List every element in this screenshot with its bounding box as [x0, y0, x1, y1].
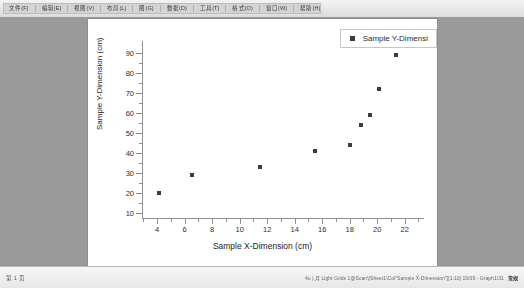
- menu-item-6[interactable]: 工具(T): [200, 3, 220, 14]
- data-point[interactable]: [359, 123, 363, 127]
- x-tick-minor: [281, 219, 282, 222]
- y-tick-label: 80: [126, 69, 134, 78]
- y-tick: [136, 113, 142, 114]
- menu-separator: [132, 5, 133, 12]
- data-point[interactable]: [157, 191, 161, 195]
- menu-item-0[interactable]: 文件(F): [9, 3, 29, 14]
- y-axis-line: [142, 41, 143, 219]
- menu-item-5[interactable]: 数据(D): [167, 3, 187, 14]
- y-tick-label: 10: [126, 209, 134, 218]
- x-tick-label: 20: [373, 225, 381, 234]
- x-tick-minor: [226, 219, 227, 222]
- x-tick: [240, 219, 241, 224]
- y-tick-minor: [139, 143, 142, 144]
- x-tick-minor: [308, 219, 309, 222]
- data-point[interactable]: [313, 149, 317, 153]
- y-tick-minor: [139, 103, 142, 104]
- menu-item-3[interactable]: 布局(L): [107, 3, 126, 14]
- menu-separator: [160, 5, 161, 12]
- x-tick-label: 6: [183, 225, 187, 234]
- y-tick: [136, 193, 142, 194]
- x-tick: [157, 219, 158, 224]
- menu-item-7[interactable]: 格式(O): [232, 3, 252, 14]
- menu-item-2[interactable]: 视图(V): [74, 3, 94, 14]
- scatter-chart[interactable]: Sample Y-Dimensi Sample Y-Dimension (cm)…: [88, 19, 437, 266]
- x-tick-label: 14: [291, 225, 299, 234]
- x-tick-minor: [171, 219, 172, 222]
- y-tick-minor: [139, 183, 142, 184]
- y-tick-minor: [139, 63, 142, 64]
- menu-separator: [259, 5, 260, 12]
- x-tick-minor: [143, 219, 144, 222]
- x-tick-minor: [253, 219, 254, 222]
- menu-separator: [193, 5, 194, 12]
- x-tick: [295, 219, 296, 224]
- origin-graph-window: 文件(F)编辑(E)视图(V)布局(L)图(G)数据(D)工具(T)格式(O)窗…: [0, 0, 524, 288]
- x-tick: [267, 219, 268, 224]
- x-tick: [350, 219, 351, 224]
- y-tick-minor: [139, 83, 142, 84]
- data-point[interactable]: [394, 53, 398, 57]
- y-tick: [136, 93, 142, 94]
- y-tick: [136, 73, 142, 74]
- y-tick: [136, 173, 142, 174]
- data-point[interactable]: [368, 113, 372, 117]
- x-tick: [377, 219, 378, 224]
- x-tick-label: 16: [318, 225, 326, 234]
- y-tick-label: 40: [126, 149, 134, 158]
- menu-separator: [35, 5, 36, 12]
- x-tick-minor: [336, 219, 337, 222]
- x-tick-label: 8: [210, 225, 214, 234]
- x-tick-label: 10: [235, 225, 243, 234]
- y-tick-label: 60: [126, 109, 134, 118]
- y-tick: [136, 53, 142, 54]
- y-tick: [136, 213, 142, 214]
- x-tick: [185, 219, 186, 224]
- status-page-indicator: 第 1 页: [6, 274, 25, 282]
- data-point[interactable]: [377, 87, 381, 91]
- status-mode-badge: 常规: [508, 274, 518, 281]
- y-axis-title: Sample Y-Dimension (cm): [95, 38, 104, 130]
- y-tick: [136, 133, 142, 134]
- status-bar: 第 1 页 4u | 月 Light Grids 1@Scan\[Sheet1\…: [0, 266, 524, 288]
- x-tick-label: 22: [401, 225, 409, 234]
- x-tick: [405, 219, 406, 224]
- graph-page[interactable]: Sample Y-Dimensi Sample Y-Dimension (cm)…: [88, 19, 437, 266]
- toolbar: 文件(F)编辑(E)视图(V)布局(L)图(G)数据(D)工具(T)格式(O)窗…: [0, 0, 524, 18]
- y-tick-label: 50: [126, 129, 134, 138]
- x-tick-label: 18: [346, 225, 354, 234]
- data-point[interactable]: [258, 165, 262, 169]
- x-tick-minor: [363, 219, 364, 222]
- y-tick-minor: [139, 203, 142, 204]
- workspace-canvas[interactable]: Sample Y-Dimensi Sample Y-Dimension (cm)…: [0, 17, 524, 266]
- y-tick-label: 20: [126, 189, 134, 198]
- y-tick-label: 90: [126, 49, 134, 58]
- y-tick-minor: [139, 163, 142, 164]
- x-axis-title: Sample X-Dimension (cm): [88, 241, 437, 251]
- menu-item-9[interactable]: 帮助(H): [300, 3, 320, 14]
- y-tick-minor: [139, 123, 142, 124]
- data-point[interactable]: [190, 173, 194, 177]
- x-tick-label: 12: [263, 225, 271, 234]
- x-tick-minor: [198, 219, 199, 222]
- x-tick: [212, 219, 213, 224]
- menu-item-1[interactable]: 编辑(E): [42, 3, 62, 14]
- status-info: 4u | 月 Light Grids 1@Scan\[Sheet1\Col"Sa…: [305, 274, 518, 281]
- menu-separator: [293, 5, 294, 12]
- menu-separator: [67, 5, 68, 12]
- menu-item-4[interactable]: 图(G): [139, 3, 153, 14]
- x-tick: [322, 219, 323, 224]
- status-dataset-text: 4u | 月 Light Grids 1@Scan\[Sheet1\Col"Sa…: [305, 274, 504, 281]
- y-tick-label: 30: [126, 169, 134, 178]
- x-tick-minor: [418, 219, 419, 222]
- x-tick-label: 4: [155, 225, 159, 234]
- y-tick-label: 70: [126, 89, 134, 98]
- menu-bar[interactable]: 文件(F)编辑(E)视图(V)布局(L)图(G)数据(D)工具(T)格式(O)窗…: [3, 3, 321, 14]
- y-tick: [136, 153, 142, 154]
- menu-separator: [100, 5, 101, 12]
- plot-area[interactable]: 10203040506070809046810121416182022: [142, 41, 424, 219]
- menu-separator: [225, 5, 226, 12]
- x-tick-minor: [391, 219, 392, 222]
- menu-item-8[interactable]: 窗口(W): [266, 3, 287, 14]
- data-point[interactable]: [348, 143, 352, 147]
